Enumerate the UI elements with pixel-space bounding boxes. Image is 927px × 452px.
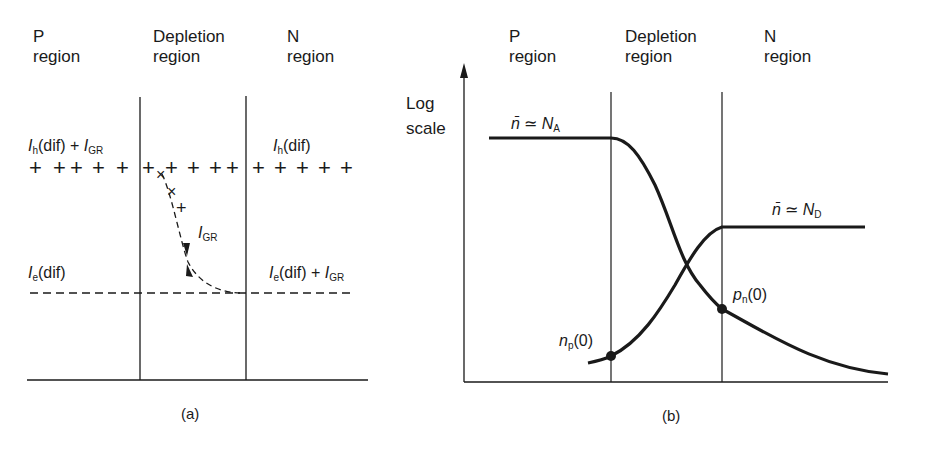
b-region-depletion: Depletion region xyxy=(625,27,697,67)
hole-plus: + xyxy=(318,158,331,178)
a-region-n: N region xyxy=(287,27,334,67)
a-region-p: P region xyxy=(33,27,80,67)
a-region-p-line2: region xyxy=(33,47,80,67)
hole-plus: + xyxy=(209,158,222,178)
axis-arrow-icon xyxy=(460,63,468,78)
label-pn0: pn(0) xyxy=(733,286,767,305)
hole-plus: + xyxy=(70,158,83,178)
label-ie-dif: Ie(dif) xyxy=(28,264,66,283)
a-region-depletion: Depletion region xyxy=(153,27,225,67)
a-region-depletion-line1: Depletion xyxy=(153,27,225,47)
caption-b: (b) xyxy=(662,407,680,424)
pn0-point xyxy=(717,304,727,314)
hole-plus: + xyxy=(340,158,353,178)
label-n-approx-na: n̄ ≃ NA xyxy=(511,114,560,134)
hole-plus: + xyxy=(142,158,155,178)
hole-plus: + xyxy=(274,158,287,178)
a-region-n-line2: region xyxy=(287,47,334,67)
axis-label-log-scale: Log scale xyxy=(406,91,446,141)
hole-plus: + xyxy=(252,158,265,178)
hole-plus: + xyxy=(92,158,105,178)
generation-marker-plus: + xyxy=(176,198,187,218)
a-region-n-line1: N xyxy=(287,27,334,47)
panel-b-graphics xyxy=(460,63,888,382)
hole-plus: + xyxy=(53,158,66,178)
label-np0: np(0) xyxy=(559,332,593,351)
b-region-depletion-line1: Depletion xyxy=(625,27,697,47)
b-region-depletion-line2: region xyxy=(625,47,697,67)
b-region-n: N region xyxy=(764,27,811,67)
b-region-p-line1: P xyxy=(509,27,556,47)
label-ie-dif-plus-igr: Ie(dif) + IGR xyxy=(269,264,344,283)
hole-plus: + xyxy=(296,158,309,178)
label-ih-dif-plus-igr: Ih(dif) + IGR xyxy=(28,137,103,156)
label-n-approx-nd: n̄ ≃ ND xyxy=(772,200,822,220)
label-ih-dif: Ih(dif) xyxy=(273,137,311,156)
b-region-p-line2: region xyxy=(509,47,556,67)
electron-concentration-curve xyxy=(588,227,865,363)
axis-label-line1: Log xyxy=(406,91,446,116)
b-region-n-line1: N xyxy=(764,27,811,47)
hole-plus: + xyxy=(187,158,200,178)
gr-arrow-down-icon xyxy=(183,243,190,256)
hole-plus: + xyxy=(165,158,178,178)
caption-a: (a) xyxy=(181,405,199,422)
hole-plus: + xyxy=(226,158,239,178)
hole-plus: + xyxy=(29,158,42,178)
generation-marker: × xyxy=(167,182,176,202)
b-region-p: P region xyxy=(509,27,556,67)
generation-marker: × xyxy=(156,165,165,185)
a-region-p-line1: P xyxy=(33,27,80,47)
np0-point xyxy=(606,351,616,361)
b-region-n-line2: region xyxy=(764,47,811,67)
hole-plus: + xyxy=(116,158,129,178)
axis-label-line2: scale xyxy=(406,116,446,141)
a-region-depletion-line2: region xyxy=(153,47,225,67)
hole-concentration-curve xyxy=(489,138,888,374)
diagram-canvas xyxy=(0,0,927,452)
label-igr: IGR xyxy=(198,224,217,243)
